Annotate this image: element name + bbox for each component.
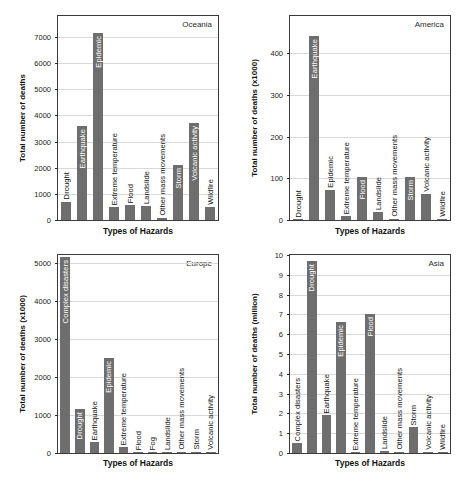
chart-title: America (415, 20, 444, 29)
y-tick-mark (287, 95, 290, 96)
plot-area: Europe 010002000300040005000Complex disa… (57, 254, 219, 454)
bar-flood (125, 205, 136, 220)
y-tick-label: 6 (279, 330, 283, 339)
bar-landslide (373, 212, 384, 220)
bar-label-fog: Fog (148, 437, 157, 450)
bar-landslide (141, 206, 152, 220)
y-tick-mark (55, 63, 58, 64)
bar-label-epidemic: Epidemic (94, 36, 103, 68)
y-tick-label: 100 (270, 174, 283, 183)
y-tick-mark (287, 295, 290, 296)
plot-area: Oceania 01000200030004000500060007000Dro… (57, 15, 219, 221)
y-tick-label: 0 (279, 449, 283, 458)
bar-drought (61, 202, 72, 220)
gridline (58, 115, 218, 116)
bar-other-mass-movements (157, 218, 168, 220)
bar-label-extreme-temperature: Extreme temperature (342, 142, 351, 214)
x-axis-label: Types of Hazards (57, 458, 219, 468)
gridline (58, 63, 218, 64)
bar-label-epidemic: Epidemic (104, 361, 113, 393)
bar-landslide (380, 451, 390, 453)
bar-label-flood: Flood (358, 180, 367, 199)
y-tick-mark (287, 374, 290, 375)
y-tick-label: 0 (279, 216, 283, 225)
y-axis-label: Total number of deaths (x1000) (18, 295, 27, 413)
bar-landslide (162, 452, 172, 453)
bar-label-epidemic: Epidemic (326, 156, 335, 188)
y-tick-mark (287, 220, 290, 221)
bar-extreme-temperature (351, 452, 361, 453)
y-tick-label: 7000 (34, 32, 51, 41)
bar-label-drought: Drought (62, 172, 71, 199)
y-tick-label: 5000 (34, 258, 51, 267)
bar-label-storm: Storm (174, 168, 183, 189)
bar-extreme-temperature (119, 447, 129, 453)
y-tick-label: 400 (270, 49, 283, 58)
bar-label-extreme-temperature: Extreme temperature (351, 378, 360, 450)
y-tick-label: 8 (279, 290, 283, 299)
y-tick-label: 200 (270, 132, 283, 141)
y-tick-mark (287, 314, 290, 315)
y-tick-label: 300 (270, 91, 283, 100)
x-axis-label: Types of Hazards (57, 226, 219, 236)
bar-label-other-mass-movements: Other mass movements (177, 368, 186, 450)
bar-earthquake (322, 415, 332, 453)
bar-storm (191, 452, 201, 453)
bar-earthquake (90, 442, 100, 453)
bar-epidemic (325, 190, 336, 220)
y-tick-label: 3 (279, 389, 283, 398)
y-tick-mark (55, 377, 58, 378)
y-tick-mark (287, 394, 290, 395)
y-axis-label: Total number of deaths (x1000) (250, 59, 259, 177)
bar-label-complex-disasters: Complex disasters (61, 260, 70, 323)
y-tick-mark (287, 255, 290, 256)
chart-oceania: Total number of deaths Oceania 010002000… (0, 0, 231, 249)
chart-asia: Total number of deaths (million) Asia 01… (232, 249, 463, 498)
bar-label-volcanic-activity: Volcanic activity (206, 395, 215, 450)
bar-label-other-mass-movements: Other mass movements (390, 135, 399, 217)
bar-label-drought: Drought (294, 190, 303, 217)
bar-volcanic-activity (421, 194, 432, 220)
plot-area: Asia 012345678910Complex disastersDrough… (289, 254, 451, 454)
bar-label-storm: Storm (406, 180, 415, 201)
gridline (58, 339, 218, 340)
y-tick-label: 1000 (34, 189, 51, 198)
y-tick-mark (287, 137, 290, 138)
bar-label-earthquake: Earthquake (90, 401, 99, 440)
bar-wildfire (437, 219, 448, 220)
bar-label-flood: Flood (134, 431, 143, 450)
y-tick-label: 5000 (34, 85, 51, 94)
y-tick-mark (287, 433, 290, 434)
y-tick-mark (55, 89, 58, 90)
y-tick-mark (287, 413, 290, 414)
bar-label-complex-disasters: Complex disasters (293, 378, 302, 441)
y-tick-mark (55, 301, 58, 302)
chart-america: Total number of deaths (x1000) America 0… (232, 0, 463, 249)
y-tick-mark (287, 334, 290, 335)
bar-wildfire (205, 207, 216, 220)
bar-label-earthquake: Earthquake (78, 129, 87, 168)
bar-label-volcanic-activity: Volcanic activity (422, 137, 431, 192)
y-tick-label: 0 (47, 216, 51, 225)
bar-label-wildfire: Wildfire (438, 191, 447, 217)
bar-wildfire (438, 452, 448, 453)
y-tick-label: 10 (275, 251, 283, 260)
gridline (58, 263, 218, 264)
bar-volcanic-activity (206, 452, 216, 453)
bar-label-volcanic-activity: Volcanic activity (424, 395, 433, 450)
bar-label-storm: Storm (409, 405, 418, 426)
bar-extreme-temperature (109, 207, 120, 220)
bar-other-mass-movements (177, 452, 187, 453)
bar-label-drought: Drought (307, 264, 316, 291)
y-tick-mark (55, 37, 58, 38)
bar-label-epidemic: Epidemic (336, 325, 345, 357)
y-tick-label: 5 (279, 350, 283, 359)
bar-label-wildfire: Wildfire (438, 424, 447, 450)
y-tick-label: 2000 (34, 163, 51, 172)
y-tick-label: 1 (279, 429, 283, 438)
y-tick-mark (287, 453, 290, 454)
y-tick-label: 9 (279, 270, 283, 279)
bar-label-flood: Flood (366, 317, 375, 336)
plot-area: America 0100200300400DroughtEarthquakeEp… (289, 15, 451, 221)
bar-label-earthquake: Earthquake (310, 39, 319, 78)
